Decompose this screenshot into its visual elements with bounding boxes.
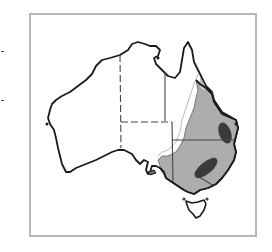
island-dot: [182, 197, 185, 200]
coast-mark: [235, 123, 238, 126]
coast-mark: [46, 123, 49, 126]
australia-map: [0, 0, 272, 252]
island-dot: [205, 197, 208, 200]
coast-mark: [157, 57, 160, 60]
tasmania: [186, 200, 206, 218]
